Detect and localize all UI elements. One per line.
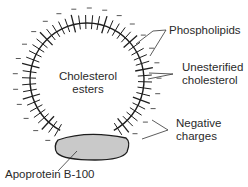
core-label: Cholesterol esters [58,70,118,96]
negative-line2: charges [176,130,221,143]
phospholipids-label: Phospholipids [169,24,241,37]
core-label-line1: Cholesterol [58,70,118,83]
negative-line1: Negative [176,117,221,130]
unesterified-line2: cholesterol [182,74,243,87]
ldl-diagram: Cholesterol esters Phospholipids Unester… [0,0,248,187]
core-label-line2: esters [58,83,118,96]
unesterified-line1: Unesterified [182,61,243,74]
unesterified-cholesterol-label: Unesterified cholesterol [182,61,243,87]
apoprotein-band [55,134,129,160]
negative-charges-label: Negative charges [176,117,221,143]
apoprotein-label: Apoprotein B-100 [5,168,95,181]
